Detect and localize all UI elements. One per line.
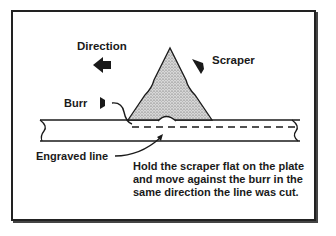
burr-marker-icon <box>100 97 105 109</box>
scraper-diagram <box>0 0 336 236</box>
scraper-shape <box>128 48 212 120</box>
direction-arrow-icon <box>93 57 111 73</box>
label-burr: Burr <box>64 97 87 109</box>
burr-arrow <box>112 103 132 124</box>
label-scraper: Scraper <box>212 54 255 66</box>
label-direction: Direction <box>77 40 127 52</box>
label-engraved-line: Engraved line <box>36 150 108 162</box>
instruction-text: Hold the scraper flat on the plate and m… <box>133 160 323 199</box>
copper-plate <box>40 120 300 141</box>
scraper-arrow-icon <box>192 59 204 74</box>
